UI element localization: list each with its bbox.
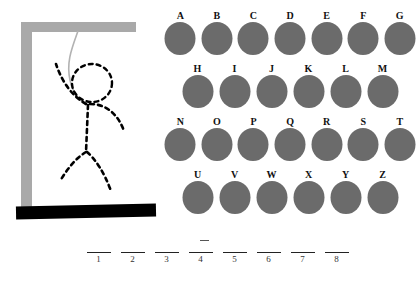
letter-circle-z[interactable] xyxy=(367,181,398,214)
letter-circle-x[interactable] xyxy=(293,181,324,214)
letter-button-e[interactable]: E xyxy=(309,10,344,63)
letter-label: D xyxy=(273,10,308,21)
letter-button-t[interactable]: T xyxy=(382,116,417,169)
letter-circle-d[interactable] xyxy=(275,22,306,55)
letter-button-d[interactable]: D xyxy=(273,10,308,63)
answer-underline xyxy=(257,252,281,253)
answer-slot-number: 8 xyxy=(322,254,351,265)
answer-underline xyxy=(325,252,349,253)
letter-label: R xyxy=(309,116,344,127)
answer-slot-number: 1 xyxy=(84,254,113,265)
answer-slot: 6 xyxy=(254,252,283,265)
letter-button-x[interactable]: X xyxy=(291,169,326,222)
letter-button-m[interactable]: M xyxy=(365,63,400,116)
figure-right-arm xyxy=(90,104,124,131)
letter-label: L xyxy=(328,63,363,74)
letter-circle-h[interactable] xyxy=(182,75,213,108)
letter-label: J xyxy=(254,63,289,74)
letter-circle-a[interactable] xyxy=(165,22,196,55)
letter-label: N xyxy=(163,116,198,127)
letter-button-i[interactable]: I xyxy=(217,63,252,116)
letter-button-g[interactable]: G xyxy=(382,10,417,63)
letter-label: H xyxy=(180,63,215,74)
letter-circle-b[interactable] xyxy=(201,22,232,55)
letter-label: S xyxy=(346,116,381,127)
letter-button-n[interactable]: N xyxy=(163,116,198,169)
letter-button-q[interactable]: Q xyxy=(273,116,308,169)
letter-button-u[interactable]: U xyxy=(180,169,215,222)
letter-button-s[interactable]: S xyxy=(346,116,381,169)
letter-circle-c[interactable] xyxy=(238,22,269,55)
answer-slot-number: 6 xyxy=(254,254,283,265)
letter-circle-v[interactable] xyxy=(219,181,250,214)
letter-circle-l[interactable] xyxy=(330,75,361,108)
letter-button-a[interactable]: A xyxy=(163,10,198,63)
answer-slot: 4 xyxy=(186,252,215,265)
letter-circle-e[interactable] xyxy=(311,22,342,55)
answer-slot: 8 xyxy=(322,252,351,265)
letter-row: HIJKLM xyxy=(163,63,419,116)
letter-circle-g[interactable] xyxy=(384,22,415,55)
letter-button-h[interactable]: H xyxy=(180,63,215,116)
letter-button-k[interactable]: K xyxy=(291,63,326,116)
letter-button-o[interactable]: O xyxy=(200,116,235,169)
answer-underline xyxy=(121,252,145,253)
letter-label: I xyxy=(217,63,252,74)
answer-slot-number: 4 xyxy=(186,254,215,265)
answer-slot: 3 xyxy=(152,252,181,265)
letter-circle-j[interactable] xyxy=(256,75,287,108)
letter-button-l[interactable]: L xyxy=(328,63,363,116)
letter-label: V xyxy=(217,169,252,180)
letter-label: Y xyxy=(328,169,363,180)
letter-button-p[interactable]: P xyxy=(236,116,271,169)
letter-circle-u[interactable] xyxy=(182,181,213,214)
letter-button-w[interactable]: W xyxy=(254,169,289,222)
letter-circle-k[interactable] xyxy=(293,75,324,108)
letter-button-j[interactable]: J xyxy=(254,63,289,116)
figure-right-leg xyxy=(87,152,111,191)
letter-label: K xyxy=(291,63,326,74)
letter-label: M xyxy=(365,63,400,74)
answer-underline xyxy=(87,252,111,253)
figure-head xyxy=(72,64,112,102)
letter-label: C xyxy=(236,10,271,21)
answer-slot-number: 2 xyxy=(118,254,147,265)
letter-label: A xyxy=(163,10,198,21)
letter-circle-y[interactable] xyxy=(330,181,361,214)
answer-blanks: 12345678 xyxy=(84,252,356,265)
letter-button-v[interactable]: V xyxy=(217,169,252,222)
letter-button-f[interactable]: F xyxy=(346,10,381,63)
letter-button-c[interactable]: C xyxy=(236,10,271,63)
letter-circle-f[interactable] xyxy=(348,22,379,55)
hanged-figure xyxy=(0,0,165,230)
letter-label: T xyxy=(382,116,417,127)
figure-torso xyxy=(86,105,88,152)
letter-label: B xyxy=(200,10,235,21)
letter-label: X xyxy=(291,169,326,180)
letter-circle-t[interactable] xyxy=(384,128,415,161)
letter-button-b[interactable]: B xyxy=(200,10,235,63)
letter-circle-p[interactable] xyxy=(238,128,269,161)
letter-circle-q[interactable] xyxy=(275,128,306,161)
letter-button-y[interactable]: Y xyxy=(328,169,363,222)
letter-circle-w[interactable] xyxy=(256,181,287,214)
answer-slot-number: 7 xyxy=(288,254,317,265)
letter-label: O xyxy=(200,116,235,127)
letter-row: ABCDEFG xyxy=(163,10,419,63)
letter-circle-o[interactable] xyxy=(201,128,232,161)
letter-label: Z xyxy=(365,169,400,180)
letter-circle-s[interactable] xyxy=(348,128,379,161)
letter-label: E xyxy=(309,10,344,21)
letter-label: P xyxy=(236,116,271,127)
figure-left-leg xyxy=(60,152,86,181)
letter-circle-m[interactable] xyxy=(367,75,398,108)
letter-row: NOPQRST xyxy=(163,116,419,169)
letter-circle-r[interactable] xyxy=(311,128,342,161)
letter-circle-n[interactable] xyxy=(165,128,196,161)
letter-label: Q xyxy=(273,116,308,127)
letter-button-z[interactable]: Z xyxy=(365,169,400,222)
answer-slot: 1 xyxy=(84,252,113,265)
letter-circle-i[interactable] xyxy=(219,75,250,108)
letter-button-r[interactable]: R xyxy=(309,116,344,169)
hangman-game-screen: ABCDEFGHIJKLMNOPQRSTUVWXYZ 12345678 xyxy=(0,0,419,290)
